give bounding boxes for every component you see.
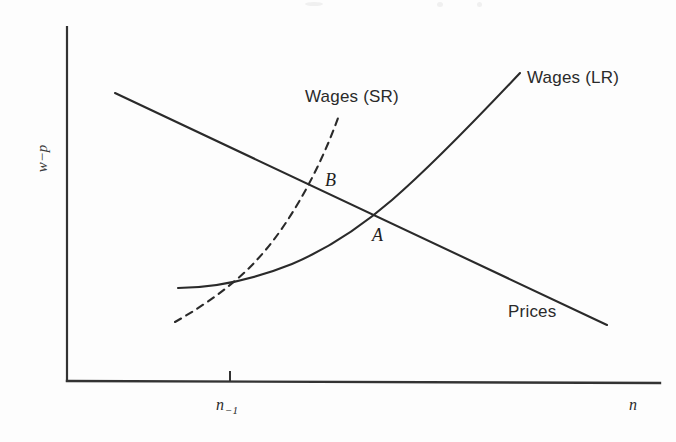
x-axis bbox=[67, 381, 660, 383]
x-tick-base: n bbox=[216, 396, 224, 413]
point-label-b: B bbox=[325, 170, 336, 191]
wages-sr-curve bbox=[175, 118, 338, 322]
y-axis-label: w−p bbox=[34, 129, 51, 189]
x-axis-label: n bbox=[629, 396, 637, 414]
x-tick-subscript: −1 bbox=[224, 404, 238, 416]
wages-sr-label: Wages (SR) bbox=[305, 87, 399, 107]
wages-lr-label: Wages (LR) bbox=[527, 68, 619, 88]
x-axis-tick-label-n-minus-1: n−1 bbox=[216, 396, 238, 416]
point-label-a: A bbox=[372, 225, 383, 246]
diagram-canvas bbox=[0, 0, 676, 442]
economics-diagram: w−p Wages (SR) Wages (LR) Prices B A n−1… bbox=[0, 0, 676, 442]
prices-curve bbox=[115, 93, 607, 325]
prices-label: Prices bbox=[508, 302, 556, 322]
